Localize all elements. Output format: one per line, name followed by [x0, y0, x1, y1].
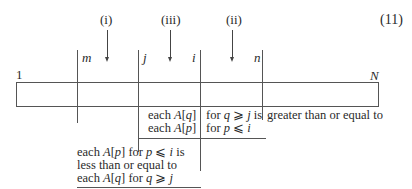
annotation-lower-line3: each A[q] for q ⩾ j	[77, 171, 173, 186]
annotation-greater-equal: greater than or equal to	[267, 108, 383, 123]
upper-annotation-underline	[138, 138, 266, 139]
marker-i: i	[192, 50, 196, 66]
arrow-label-ii: (ii)	[226, 12, 242, 28]
arrow-label-i: (i)	[100, 12, 112, 28]
equation-number: (11)	[380, 12, 403, 28]
annotation-each-ap: each A[p]	[148, 121, 194, 136]
lower-annotation-underline	[77, 187, 201, 188]
annotation-for-p-le-i: for p ⩽ i	[206, 121, 251, 136]
divider-i	[200, 50, 201, 171]
marker-m: m	[82, 50, 91, 66]
arrow-label-iii: (iii)	[161, 12, 181, 28]
divider-m	[77, 50, 78, 123]
marker-n: n	[254, 50, 261, 66]
divider-j	[138, 50, 139, 152]
array-start-label: 1	[16, 67, 23, 83]
marker-j: j	[143, 50, 147, 66]
